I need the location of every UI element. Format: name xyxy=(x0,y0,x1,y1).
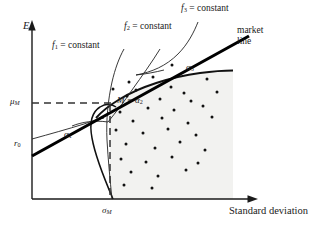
asset-point xyxy=(161,117,164,120)
asset-point xyxy=(115,129,118,132)
asset-point xyxy=(187,122,190,125)
asset-point xyxy=(152,76,155,79)
asset-point xyxy=(195,134,198,137)
sigma-m-subscript: M xyxy=(106,209,111,215)
asset-point xyxy=(125,143,128,146)
asset-point xyxy=(120,158,123,161)
market-point-prefix: M = xyxy=(117,95,135,105)
f2-rest: = constant xyxy=(130,21,172,31)
asset-point xyxy=(135,89,138,92)
asset-point xyxy=(128,81,131,84)
x-axis-label: Standard deviation xyxy=(229,205,308,216)
asset-point xyxy=(157,175,160,178)
asset-point xyxy=(179,141,182,144)
asset-point xyxy=(159,98,162,101)
market-line-label: market line xyxy=(237,25,263,47)
f3-constant-curve-tail xyxy=(136,70,164,75)
feasible-region-shading xyxy=(110,71,233,199)
asset-point xyxy=(197,162,200,165)
asset-point xyxy=(170,86,173,89)
market-line-label-line2: line xyxy=(237,36,251,46)
r0-subscript: 0 xyxy=(18,142,21,148)
alpha1-subscript: 1 xyxy=(69,133,72,139)
f3-rest: = constant xyxy=(187,3,229,13)
mu-m-subscript: M xyxy=(15,100,20,106)
asset-point xyxy=(171,64,174,67)
alpha3-subscript: 3 xyxy=(191,66,194,72)
asset-point xyxy=(202,105,205,108)
f1-rest: = constant xyxy=(58,40,100,50)
asset-point xyxy=(173,109,176,112)
asset-point xyxy=(185,169,188,172)
r0-tick-label: r0 xyxy=(14,139,21,149)
y-axis-label: E xyxy=(23,20,29,31)
asset-point xyxy=(190,100,193,103)
asset-point xyxy=(130,171,133,174)
asset-point xyxy=(132,120,135,123)
asset-point xyxy=(142,132,145,135)
market-point-subscript: 2 xyxy=(140,99,143,105)
asset-point xyxy=(204,149,207,152)
asset-point xyxy=(119,111,122,114)
asset-point xyxy=(216,91,219,94)
asset-point xyxy=(171,156,174,159)
asset-point xyxy=(183,92,186,95)
asset-point xyxy=(147,107,150,110)
figure-container: E Standard deviation μM r0 σM f1 = const… xyxy=(0,0,329,244)
mu-m-tick-label: μM xyxy=(10,97,20,107)
f1-constant-label: f1 = constant xyxy=(52,41,100,51)
asset-point xyxy=(211,116,214,119)
asset-point xyxy=(154,147,157,150)
sigma-m-tick-label: σM xyxy=(102,206,112,216)
alpha3-label: α3 xyxy=(186,63,194,73)
y-axis xyxy=(28,20,35,199)
asset-point xyxy=(167,128,170,131)
asset-point xyxy=(206,78,209,81)
alpha1-label: α1 xyxy=(64,130,72,140)
asset-point xyxy=(151,187,154,190)
asset-point xyxy=(145,161,148,164)
asset-point xyxy=(123,184,126,187)
f3-constant-label: f3 = constant xyxy=(181,4,229,14)
asset-point xyxy=(112,88,115,91)
market-point-label: M = α2 xyxy=(117,96,143,106)
f2-constant-label: f2 = constant xyxy=(124,22,172,32)
market-line-label-line1: market xyxy=(237,25,263,35)
